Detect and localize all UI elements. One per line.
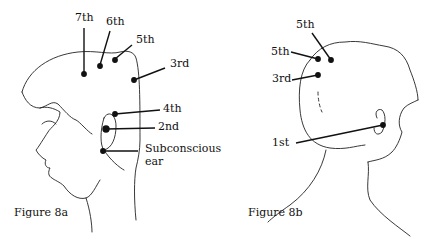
fig-a-jaw — [104, 150, 124, 170]
fig-a-ear — [101, 114, 116, 150]
diagram-canvas: 7th 6th 5th 3rd 4th 2nd Subconscious ear… — [0, 0, 433, 242]
label-b-5th-top: 5th — [296, 19, 315, 31]
fig-b-ear — [374, 109, 385, 134]
label-subconscious-ear: ear — [145, 156, 163, 168]
label-6th: 6th — [106, 16, 125, 28]
label-3rd: 3rd — [170, 58, 189, 70]
label-7th: 7th — [75, 12, 94, 24]
fig-b-hair-top — [310, 41, 418, 100]
fig-a-eye — [42, 121, 56, 124]
label-4th: 4th — [163, 103, 182, 115]
label-2nd: 2nd — [158, 121, 179, 133]
fig-a-hair-front — [22, 92, 92, 134]
fig-b-face — [368, 100, 418, 162]
label-5th: 5th — [136, 34, 155, 46]
caption-figure-8b: Figure 8b — [248, 206, 303, 219]
fig-a-neck — [86, 198, 92, 232]
fig-b-hairline — [318, 92, 322, 112]
fig-a-face — [36, 107, 100, 198]
caption-figure-8a: Figure 8a — [14, 206, 68, 219]
label-b-5th-left: 5th — [271, 46, 290, 58]
fig-a-head-outline — [22, 51, 140, 220]
label-b-3rd: 3rd — [272, 73, 291, 85]
fig-b-neck-right — [368, 162, 410, 236]
label-b-1st: 1st — [272, 137, 289, 149]
label-subconscious: Subconscious — [145, 143, 221, 155]
